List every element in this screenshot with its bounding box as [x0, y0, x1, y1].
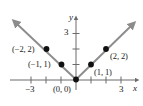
y-axis-label: y [69, 13, 73, 22]
absolute-value-graph-figure: y x 3 −3 3 (−2, 2) (−1, 1) (0, 0) (1, 1)… [0, 0, 143, 106]
point-label-1-1: (1, 1) [94, 68, 112, 77]
x-tick-label-3: 3 [119, 85, 123, 94]
x-axis-label: x [133, 84, 137, 93]
y-tick-label-3: 3 [64, 28, 68, 37]
point-label-neg1-1: (−1, 1) [28, 60, 51, 69]
point-origin [73, 77, 79, 83]
point-label-neg2-2: (−2, 2) [12, 45, 35, 54]
point-neg1-1 [59, 62, 65, 68]
x-tick-label-neg3: −3 [25, 85, 34, 94]
point-neg2-2 [44, 46, 50, 52]
point-label-origin: (0, 0) [53, 85, 71, 94]
point-label-2-2: (2, 2) [110, 52, 128, 61]
point-2-2 [103, 46, 109, 52]
